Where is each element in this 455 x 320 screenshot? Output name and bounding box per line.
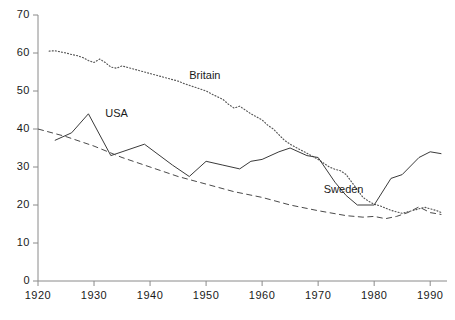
x-tick-label: 1980 xyxy=(356,289,392,301)
series-label-sweden: Sweden xyxy=(324,183,364,195)
y-tick-label: 0 xyxy=(0,274,30,286)
x-tick-label: 1950 xyxy=(188,289,224,301)
y-tick-label: 40 xyxy=(0,122,30,134)
y-tick-label: 60 xyxy=(0,46,30,58)
chart-series-group xyxy=(38,51,441,219)
x-tick-label: 1930 xyxy=(76,289,112,301)
y-axis-ticks xyxy=(33,15,38,281)
x-tick-label: 1990 xyxy=(412,289,448,301)
y-tick-label: 10 xyxy=(0,236,30,248)
y-tick-label: 50 xyxy=(0,84,30,96)
x-tick-label: 1960 xyxy=(244,289,280,301)
chart-axes xyxy=(38,15,447,281)
series-label-britain: Britain xyxy=(189,69,220,81)
x-axis-ticks xyxy=(38,281,430,286)
chart-plot-area xyxy=(0,0,455,320)
y-tick-label: 20 xyxy=(0,198,30,210)
line-chart: 010203040506070 192019301940195019601970… xyxy=(0,0,455,320)
series-line-sweden xyxy=(38,129,441,219)
y-tick-label: 30 xyxy=(0,160,30,172)
series-line-usa xyxy=(55,114,442,205)
x-tick-label: 1940 xyxy=(132,289,168,301)
x-tick-label: 1920 xyxy=(20,289,56,301)
series-label-usa: USA xyxy=(105,107,128,119)
series-line-britain xyxy=(49,51,441,214)
y-tick-label: 70 xyxy=(0,8,30,20)
x-tick-label: 1970 xyxy=(300,289,336,301)
